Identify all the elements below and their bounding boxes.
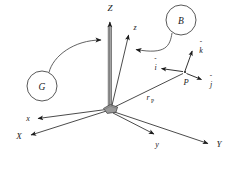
callout-leader-g [49, 40, 101, 73]
position-vector-label: r P [146, 93, 154, 104]
rP-base: r [146, 93, 150, 102]
k-hat-glyph: k [199, 46, 203, 55]
axis-label-y: y [154, 140, 159, 149]
axis-label-Y: Y [216, 139, 222, 149]
axis-Z-global [108, 22, 111, 109]
j-hat-glyph: j [209, 80, 213, 89]
unit-vector-label-k-hat: ˆ k [199, 39, 203, 55]
unit-vector-label-j-hat: ˆ j [209, 73, 213, 90]
unit-vector-label-i-hat: ˆ i [154, 56, 157, 73]
axis-Y-global [113, 112, 208, 144]
rP-subscript: P [151, 98, 154, 104]
callout-label-g: G [39, 82, 46, 92]
callout-leader-b [136, 33, 172, 51]
point-label-P: P [182, 77, 188, 87]
diagram-canvas: G B Z X Y z x y P ˆ i ˆ j ˆ k r P [0, 0, 231, 170]
axis-z-body [112, 35, 129, 108]
axis-label-z: z [132, 23, 137, 32]
vector-diagram-figure: G B Z X Y z x y P ˆ i ˆ j ˆ k r P [0, 0, 231, 170]
i-hat-glyph: i [154, 63, 156, 72]
origin-hub [104, 105, 118, 114]
axis-label-Z: Z [107, 3, 113, 13]
axis-label-X: X [15, 131, 22, 141]
unit-vector-triad [162, 51, 202, 80]
axis-label-x: x [25, 114, 30, 123]
callout-label-b: B [178, 16, 184, 26]
